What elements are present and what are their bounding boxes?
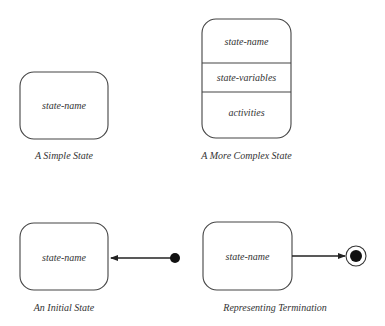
complex-state-activities: activities [228, 107, 264, 118]
initial-state-caption: An Initial State [33, 302, 95, 313]
termination-state-caption: Representing Termination [222, 302, 326, 313]
termination-state: state-name Representing Termination [203, 222, 366, 313]
simple-state: state-name A Simple State [20, 72, 108, 161]
initial-state: state-name An Initial State [20, 223, 180, 313]
simple-state-caption: A Simple State [34, 150, 94, 161]
simple-state-name: state-name [42, 100, 86, 111]
complex-state: state-name state-variables activities A … [200, 19, 292, 161]
termination-state-name: state-name [226, 251, 270, 262]
complex-state-caption: A More Complex State [200, 150, 292, 161]
state-diagram-notation: state-name A Simple State state-name sta… [0, 0, 385, 326]
initial-pseudostate-dot-icon [170, 253, 180, 263]
complex-state-name: state-name [225, 36, 269, 47]
final-state-bullseye-icon [346, 246, 366, 266]
complex-state-variables: state-variables [217, 72, 277, 83]
initial-state-name: state-name [42, 252, 86, 263]
